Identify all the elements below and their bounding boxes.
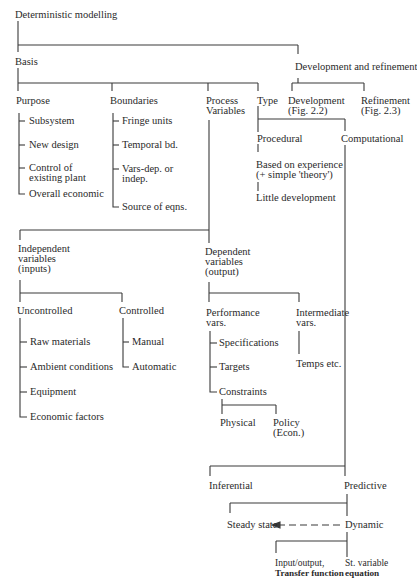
state-variable-line2: equation: [345, 568, 388, 578]
node-input-output-transfer-function: Input/output, Transfer function: [275, 558, 344, 578]
purpose-item-subsystem: Subsystem: [29, 116, 75, 126]
node-inferential: Inferential: [209, 481, 253, 491]
experience-line2: (+ simple 'theory'): [256, 170, 343, 180]
node-deterministic-modelling: Deterministic modelling: [15, 10, 117, 20]
node-predictive: Predictive: [344, 481, 387, 491]
transfer-function-line2: Transfer function: [275, 568, 344, 578]
node-purpose: Purpose: [16, 96, 50, 106]
node-performance-vars: Performance vars.: [206, 308, 260, 328]
uncontrolled-item-raw-materials: Raw materials: [30, 337, 90, 347]
boundaries-item-source-of-eqns: Source of eqns.: [122, 202, 187, 212]
process-variables-line2: Variables: [206, 106, 245, 116]
node-dynamic: Dynamic: [345, 520, 384, 530]
node-independent-variables: Independent variables (inputs): [18, 244, 70, 274]
uncontrolled-item-equipment: Equipment: [30, 387, 76, 397]
intermediate-line2: vars.: [296, 318, 349, 328]
purpose-item-new-design: New design: [29, 140, 79, 150]
dependent-line3: (output): [205, 267, 250, 277]
refinement-figure-ref: (Fig. 2.3): [361, 106, 410, 116]
node-state-variable-equation: St. variable equation: [345, 558, 388, 578]
purpose-item-control-existing-plant: Control of existing plant: [29, 163, 86, 183]
node-development: Development (Fig. 2.2): [288, 96, 345, 116]
node-uncontrolled: Uncontrolled: [17, 306, 72, 316]
boundaries-item-fringe-units: Fringe units: [122, 116, 172, 126]
state-variable-line1: St. variable: [345, 558, 388, 568]
node-basis: Basis: [15, 57, 38, 67]
node-refinement: Refinement (Fig. 2.3): [361, 96, 410, 116]
node-temps-etc: Temps etc.: [296, 359, 341, 369]
controlled-item-manual: Manual: [132, 337, 164, 347]
node-dependent-variables: Dependent variables (output): [205, 247, 250, 277]
node-type: Type: [257, 96, 278, 106]
node-procedural: Procedural: [257, 134, 302, 144]
node-development-and-refinement: Development and refinement: [295, 62, 417, 72]
boundaries-item-temporal-bd: Temporal bd.: [122, 140, 178, 150]
node-process-variables: Process Variables: [206, 96, 245, 116]
node-based-on-experience: Based on experience (+ simple 'theory'): [256, 160, 343, 180]
node-policy: Policy (Econ.): [273, 418, 304, 438]
uncontrolled-item-economic-factors: Economic factors: [30, 412, 104, 422]
node-computational: Computational: [341, 134, 403, 144]
input-output-line1: Input/output,: [275, 558, 344, 568]
development-figure-ref: (Fig. 2.2): [288, 106, 345, 116]
vars-line2: indep.: [122, 174, 173, 184]
control-line2: existing plant: [29, 173, 86, 183]
policy-line2: (Econ.): [273, 428, 304, 438]
controlled-item-automatic: Automatic: [132, 362, 176, 372]
node-boundaries: Boundaries: [110, 96, 158, 106]
performance-item-specifications: Specifications: [219, 338, 278, 348]
node-controlled: Controlled: [119, 306, 164, 316]
purpose-item-overall-economic: Overall economic: [29, 189, 104, 199]
node-steady-state: Steady state: [227, 520, 277, 530]
node-little-development: Little development: [256, 193, 336, 203]
uncontrolled-item-ambient-conditions: Ambient conditions: [30, 362, 113, 372]
independent-line3: (inputs): [18, 264, 70, 274]
performance-line2: vars.: [206, 318, 260, 328]
performance-item-constraints: Constraints: [219, 387, 267, 397]
boundaries-item-vars-dep-indep: Vars-dep. or indep.: [122, 164, 173, 184]
performance-item-targets: Targets: [219, 362, 250, 372]
node-intermediate-vars: Intermediate vars.: [296, 308, 349, 328]
node-physical: Physical: [220, 418, 256, 428]
